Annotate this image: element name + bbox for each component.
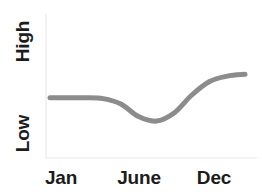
chart-plot-area <box>0 0 262 195</box>
line-chart: High Low Jan June Dec <box>0 0 262 195</box>
trend-line-path <box>50 74 245 121</box>
